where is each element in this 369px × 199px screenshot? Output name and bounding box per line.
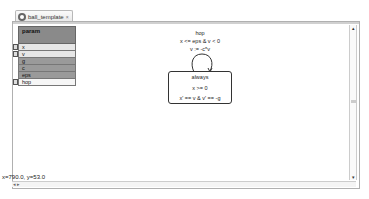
palette-item-label: x xyxy=(22,44,25,50)
location-name: always xyxy=(169,74,231,80)
palette-item-hop[interactable]: hop xyxy=(18,79,76,86)
tab-label: ball_template xyxy=(28,14,64,20)
palette-item-label: g xyxy=(22,58,25,64)
port-marker-icon xyxy=(13,51,18,57)
palette-item-label: v xyxy=(22,51,25,57)
palette-item-c[interactable]: c xyxy=(18,65,76,72)
palette-item-eps[interactable]: eps xyxy=(18,72,76,79)
palette-item-label: c xyxy=(22,65,25,71)
automaton-icon xyxy=(18,13,26,21)
vertical-scrollbar[interactable]: ▴ ▾ xyxy=(349,25,357,180)
transition-guard[interactable]: x <= eps & v < 0 xyxy=(160,38,240,44)
port-marker-icon xyxy=(13,79,18,85)
location-invariant: x >= 0 xyxy=(169,85,231,91)
scroll-arrows-icon[interactable]: ◂ ▸ xyxy=(13,181,20,187)
model-editor: ball_template × param x v g c xyxy=(0,0,369,199)
palette-item-x[interactable]: x xyxy=(18,44,76,51)
close-icon[interactable]: × xyxy=(66,14,69,20)
palette-item-label: hop xyxy=(22,79,31,85)
palette-item-v[interactable]: v xyxy=(18,51,76,58)
palette-item-label: eps xyxy=(22,72,31,78)
cursor-coordinates: x=790.0, y=53.0 xyxy=(2,174,45,180)
location-flow: x' == v & v' == -g xyxy=(169,95,231,101)
palette-header: param xyxy=(18,26,76,44)
transition-name[interactable]: hop xyxy=(180,30,220,36)
palette-item-g[interactable]: g xyxy=(18,58,76,65)
scroll-down-icon[interactable]: ▾ xyxy=(350,174,356,180)
location-always[interactable]: always x >= 0 x' == v & v' == -g xyxy=(168,71,232,104)
horizontal-scrollbar[interactable]: ◂ ▸ xyxy=(12,181,356,187)
port-marker-icon xyxy=(13,44,18,50)
scroll-thumb[interactable] xyxy=(351,100,356,103)
parameter-palette: param x v g c eps xyxy=(18,26,76,86)
scroll-up-icon[interactable]: ▴ xyxy=(350,25,356,31)
